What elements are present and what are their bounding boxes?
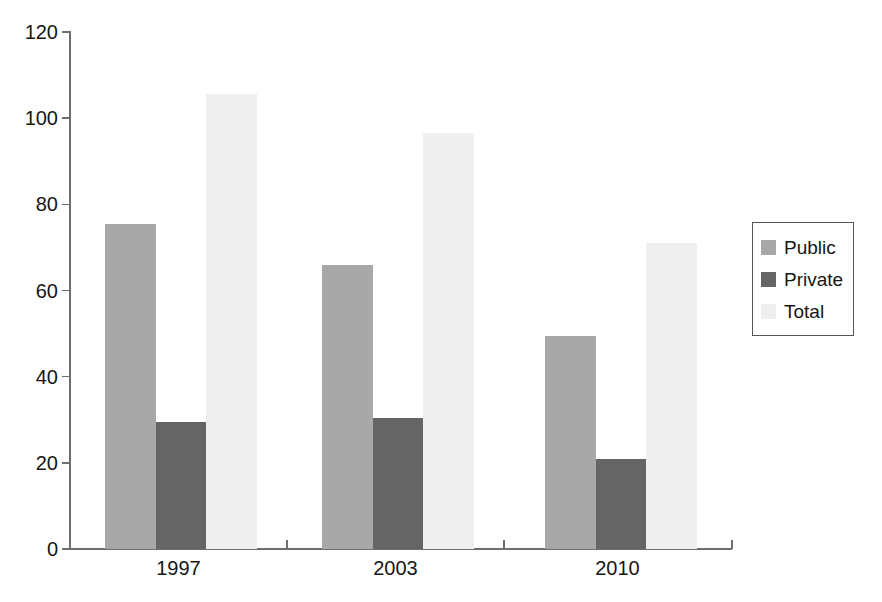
bar-2010-total[interactable]	[646, 243, 697, 549]
bar-1997-private[interactable]	[156, 422, 207, 549]
x-group-label-1997: 1997	[70, 556, 287, 580]
y-tick-label-60: 60	[0, 281, 58, 301]
legend-label-private: Private	[784, 270, 843, 289]
bar-2003-public[interactable]	[322, 265, 373, 549]
y-tick-label-80: 80	[0, 194, 58, 214]
y-tick-label-text: 60	[0, 281, 58, 301]
y-tick-label-text: 80	[0, 194, 58, 214]
bar-2003-private[interactable]	[373, 418, 424, 549]
y-tick-label-100: 100	[0, 108, 58, 128]
y-tick-label-text: 0	[0, 539, 58, 559]
legend-swatch-public-icon	[761, 240, 776, 255]
bar-1997-public[interactable]	[105, 224, 156, 549]
bar-2010-private[interactable]	[596, 459, 647, 549]
bar-2003-total[interactable]	[423, 133, 474, 549]
bar-2010-public[interactable]	[545, 336, 596, 549]
legend-item-total[interactable]: Total	[761, 295, 853, 327]
legend-item-private[interactable]: Private	[761, 263, 853, 295]
y-tick-label-120: 120	[0, 22, 58, 42]
legend-item-public[interactable]: Public	[761, 231, 853, 263]
legend-swatch-private-icon	[761, 272, 776, 287]
y-tick-label-20: 20	[0, 453, 58, 473]
legend-label-public: Public	[784, 238, 836, 257]
bar-1997-total[interactable]	[206, 94, 257, 549]
plot-area	[70, 32, 731, 549]
legend-swatch-total-icon	[761, 304, 776, 319]
x-group-label-2003: 2003	[287, 556, 504, 580]
legend-label-total: Total	[784, 302, 824, 321]
y-tick-label-text: 100	[0, 108, 58, 128]
x-axis-right-cap	[731, 540, 733, 549]
chart-page: 020406080100120 199720032010 Public Priv…	[0, 0, 882, 602]
y-tick-label-0: 0	[0, 539, 58, 559]
x-group-label-2010: 2010	[504, 556, 731, 580]
y-tick-label-text: 20	[0, 453, 58, 473]
y-tick-label-text: 120	[0, 22, 58, 42]
y-tick-label-text: 40	[0, 367, 58, 387]
chart-legend: Public Private Total	[752, 222, 854, 336]
y-tick-label-40: 40	[0, 367, 58, 387]
